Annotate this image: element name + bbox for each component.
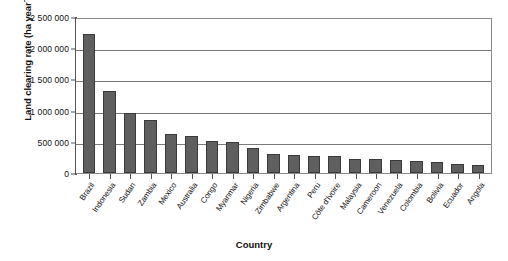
x-axis-label-cell: Côte d'Ivoire [325,180,346,240]
x-axis-tick-mark [284,174,305,179]
x-axis-tick-mark [305,174,326,179]
x-axis-tick-mark [407,174,428,179]
x-axis-tick-labels: BrazilIndonesiaSudanZambiaMexicoAustrali… [76,180,492,240]
x-axis-label-cell: Indonesia [100,180,121,240]
x-axis-tick-mark [428,174,449,179]
bar-series [76,19,491,173]
bar [226,142,238,173]
x-axis-label-cell: Angola [469,180,490,240]
bar-item [406,19,426,173]
bar-item [427,19,447,173]
bar-item [181,19,201,173]
bar-item [284,19,304,173]
x-axis-tick-label: Congo [199,181,220,205]
bar [267,154,279,173]
x-axis-tick-mark [182,174,203,179]
bar-item [243,19,263,173]
y-axis-tick-label: 2 000 000 [5,44,69,54]
x-axis-tick-mark [448,174,469,179]
x-axis-tick-mark [100,174,121,179]
y-axis-tick-label: 2 500 000 [5,13,69,23]
x-axis-tick-mark [79,174,100,179]
bar [288,155,300,173]
bar [103,91,115,173]
y-axis-tick-label: 1 000 000 [5,107,69,117]
bar [206,141,218,173]
bar-item [447,19,467,173]
bar-item [304,19,324,173]
bar-item [345,19,365,173]
x-axis-label-cell: Sudan [120,180,141,240]
x-axis-label-cell: Colombia [407,180,428,240]
x-axis-label-cell: Zambia [141,180,162,240]
bar-chart: Land clearing rate (ha year−1) 2 500 000… [0,0,508,261]
x-axis-tick-mark [161,174,182,179]
x-axis-tick-mark [243,174,264,179]
bar [451,164,463,173]
x-axis-tick-mark [141,174,162,179]
bar [472,165,484,173]
bar [431,162,443,173]
x-axis-label-cell: Australia [182,180,203,240]
x-axis-tick-label: Sudan [117,181,137,205]
bar-item [202,19,222,173]
bar-item [468,19,488,173]
bar-item [140,19,160,173]
bar-item [222,19,242,173]
x-axis-label-cell: Mexico [161,180,182,240]
x-axis-tick-label: Angola [465,181,486,206]
y-axis-tick-mark [71,80,76,81]
x-axis-tick-marks [76,174,492,179]
x-axis-label-cell: Ecuador [448,180,469,240]
x-axis-label-cell: Bolivia [428,180,449,240]
bar [124,113,136,173]
bar [144,120,156,173]
bar [165,134,177,173]
bar [185,136,197,173]
x-axis-tick-mark [469,174,490,179]
bar [390,160,402,173]
bar [328,156,340,173]
x-axis-tick-mark [202,174,223,179]
bar-item [79,19,99,173]
bar [247,148,259,173]
y-axis-tick-mark [71,18,76,19]
y-axis-tick-mark [71,111,76,112]
x-axis-tick-label: Peru [305,181,322,200]
y-axis-tick-label: 0 [5,169,69,179]
bar [83,34,95,173]
x-axis-tick-mark [387,174,408,179]
x-axis-tick-mark [346,174,367,179]
bar-item [324,19,344,173]
x-axis-tick-mark [120,174,141,179]
bar [369,159,381,173]
x-axis-tick-mark [223,174,244,179]
y-axis-tick-mark [71,49,76,50]
x-axis-tick-mark [325,174,346,179]
bar [308,156,320,173]
x-axis-tick-label: Bolivia [425,181,445,205]
bar [410,161,422,173]
x-axis-tick-label: Brazil [78,181,97,202]
x-axis-label-cell: Myanmar [223,180,244,240]
y-axis-tick-label: 500 000 [5,138,69,148]
x-axis-tick-mark [264,174,285,179]
x-axis-title: Country [0,239,508,250]
y-axis-tick-label: 1 500 000 [5,75,69,85]
bar-item [386,19,406,173]
bar-item [120,19,140,173]
plot-area [76,18,492,174]
bar-item [99,19,119,173]
bar-item [365,19,385,173]
y-axis-title-exponent: −1 [21,0,28,2]
y-axis-tick-mark [71,142,76,143]
x-axis-label-cell: Argentina [284,180,305,240]
bar-item [161,19,181,173]
x-axis-tick-mark [366,174,387,179]
bar [349,159,361,173]
bar-item [263,19,283,173]
